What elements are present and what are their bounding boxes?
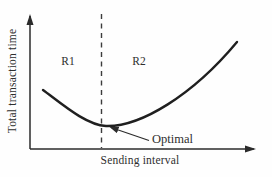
- region-r2-label: R2: [132, 55, 146, 67]
- plot-svg: Total transaction time Sending interval …: [0, 0, 272, 177]
- figure-canvas: Total transaction time Sending interval …: [0, 0, 272, 177]
- x-axis-label: Sending interval: [101, 154, 180, 167]
- optimal-label: Optimal: [152, 132, 193, 146]
- y-axis-label: Total transaction time: [6, 29, 18, 134]
- optimal-annotation-arrow: [111, 128, 149, 141]
- axes: [30, 16, 254, 149]
- region-r1-label: R1: [61, 55, 75, 67]
